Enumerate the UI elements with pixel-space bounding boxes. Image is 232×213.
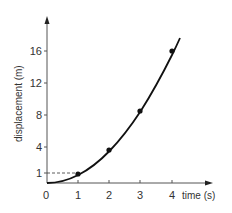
y-tick-labels: 16 12 8 4 1 [30,45,42,179]
displacement-curve [47,38,180,183]
y-tick-16: 16 [30,45,42,57]
data-point-t4 [169,48,174,53]
y-axis-arrow-icon [45,16,50,24]
data-point-t2 [106,147,111,152]
y-tick-12: 12 [30,77,42,89]
x-tick-4: 4 [169,189,175,201]
y-axis-label: displacement (m) [13,65,24,142]
x-tick-1: 1 [75,189,81,201]
x-axis-label: time (s) [182,190,215,201]
displacement-time-chart: 16 12 8 4 1 0 1 2 3 4 time (s) displacem… [0,0,232,213]
y-tick-4: 4 [36,141,42,153]
data-point-t3 [137,108,142,113]
x-tick-2: 2 [106,189,112,201]
data-point-t1 [75,171,80,176]
x-axis-arrow-icon [205,181,213,186]
x-tick-0: 0 [43,189,49,201]
y-tick-1: 1 [36,167,42,179]
x-tick-3: 3 [137,189,143,201]
y-tick-8: 8 [36,109,42,121]
data-points [75,48,174,176]
x-tick-labels: 0 1 2 3 4 [43,189,175,201]
